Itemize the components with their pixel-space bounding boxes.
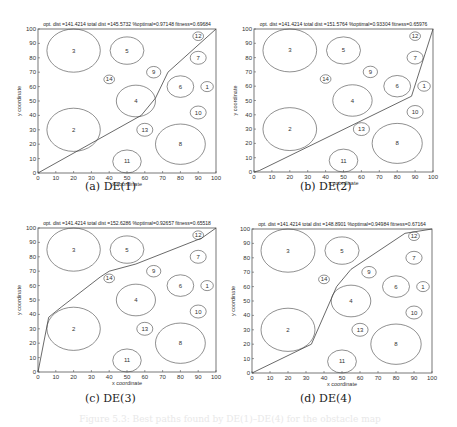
- y-tick-label: 60: [29, 283, 36, 289]
- obstacle-12: 12: [193, 32, 204, 41]
- y-tick-label: 70: [29, 69, 36, 75]
- subplot-caption-d: (d) DE(4): [300, 392, 352, 405]
- obstacle-label: 8: [394, 341, 398, 347]
- obstacle-label: 2: [72, 127, 76, 133]
- obstacle-label: 3: [286, 248, 290, 254]
- obstacle-11: 11: [113, 150, 141, 173]
- y-tick-label: 80: [245, 55, 252, 61]
- plot-title: opt. dist =141.4214 total dist =148.8901…: [258, 221, 426, 227]
- obstacle-label: 13: [141, 127, 148, 133]
- obstacle-12: 12: [410, 32, 421, 41]
- plot-area: opt. dist =141.4214 total dist =148.8901…: [252, 229, 432, 373]
- obstacle-4: 4: [333, 85, 372, 116]
- y-tick-label: 70: [29, 268, 36, 274]
- obstacle-label: 1: [205, 84, 209, 90]
- obstacle-2: 2: [261, 308, 315, 351]
- x-tick-label: 100: [211, 374, 222, 380]
- y-tick-label: 10: [243, 356, 250, 362]
- obstacle-14: 14: [104, 75, 115, 84]
- obstacle-3: 3: [261, 229, 315, 272]
- y-tick-label: 80: [243, 255, 250, 261]
- obstacle-label: 1: [205, 283, 209, 289]
- obstacle-13: 13: [137, 123, 153, 136]
- x-tick-label: 70: [376, 174, 383, 180]
- obstacle-4: 4: [331, 285, 371, 317]
- x-tick-label: 30: [88, 374, 95, 380]
- obstacle-9: 9: [147, 66, 161, 78]
- x-tick-label: 60: [141, 374, 148, 380]
- obstacle-9: 9: [363, 66, 377, 77]
- obstacle-label: 11: [124, 158, 131, 164]
- y-tick-label: 80: [29, 254, 36, 260]
- obstacle-label: 6: [179, 84, 183, 90]
- x-tick-label: 70: [159, 175, 166, 181]
- obstacle-label: 4: [134, 98, 138, 104]
- obstacle-3: 3: [47, 228, 100, 271]
- obstacle-label: 5: [342, 47, 346, 53]
- obstacle-label: 13: [358, 126, 365, 132]
- obstacle-5: 5: [325, 237, 359, 264]
- obstacle-6: 6: [167, 275, 194, 297]
- x-tick-label: 80: [177, 175, 184, 181]
- obstacle-label: 2: [288, 126, 292, 132]
- x-tick-label: 60: [358, 174, 365, 180]
- obstacle-label: 3: [72, 48, 76, 54]
- obstacle-8: 8: [371, 324, 421, 364]
- y-tick-label: 100: [242, 26, 253, 32]
- subplot-caption-c: (c) DE(3): [85, 392, 136, 405]
- y-tick-label: 30: [245, 126, 252, 132]
- y-tick-label: 50: [29, 98, 36, 104]
- obstacle-label: 6: [179, 283, 183, 289]
- obstacle-label: 9: [152, 268, 156, 274]
- x-tick-label: 10: [52, 374, 59, 380]
- obstacle-1: 1: [417, 282, 430, 292]
- obstacle-label: 9: [152, 69, 156, 75]
- subplot-caption-a: (a) DE(1): [85, 180, 136, 193]
- obstacle-6: 6: [167, 76, 194, 98]
- y-tick-label: 40: [29, 311, 36, 317]
- obstacle-label: 8: [396, 140, 400, 146]
- obstacle-label: 10: [195, 110, 202, 116]
- y-tick-label: 70: [243, 269, 250, 275]
- x-tick-label: 100: [427, 375, 438, 381]
- x-tick-label: 70: [159, 374, 166, 380]
- obstacle-label: 11: [339, 358, 346, 364]
- obstacle-label: 14: [322, 76, 329, 82]
- obstacle-13: 13: [352, 323, 368, 336]
- obstacle-label: 9: [367, 269, 371, 275]
- obstacle-label: 5: [125, 48, 129, 54]
- obstacle-label: 8: [179, 340, 183, 346]
- obstacle-2: 2: [47, 307, 100, 350]
- obstacle-label: 13: [141, 326, 148, 332]
- y-tick-label: 60: [243, 284, 250, 290]
- obstacle-label: 4: [134, 297, 138, 303]
- obstacle-11: 11: [328, 350, 357, 373]
- y-tick-label: 90: [29, 40, 36, 46]
- obstacle-7: 7: [190, 250, 206, 263]
- y-tick-label: 80: [29, 55, 36, 61]
- x-tick-label: 0: [36, 175, 40, 181]
- x-tick-label: 60: [357, 375, 364, 381]
- x-tick-label: 100: [428, 174, 439, 180]
- obstacle-5: 5: [110, 37, 144, 64]
- y-tick-label: 90: [243, 240, 250, 246]
- subplot-b: opt. dist =141.4214 total dist =151.5764…: [254, 29, 433, 172]
- obstacle-label: 1: [422, 83, 426, 89]
- obstacle-label: 1: [421, 284, 425, 290]
- y-axis-label: y coordinate: [230, 286, 236, 316]
- obstacle-label: 7: [412, 255, 416, 261]
- x-tick-label: 70: [375, 375, 382, 381]
- subplot-a: opt. dist =141.4214 total dist =145.5732…: [38, 29, 216, 173]
- obstacle-label: 14: [106, 76, 113, 82]
- obstacle-14: 14: [320, 75, 331, 84]
- obstacle-label: 2: [286, 327, 290, 333]
- y-tick-label: 30: [29, 326, 36, 332]
- y-tick-label: 100: [26, 225, 37, 231]
- obstacle-10: 10: [406, 306, 422, 319]
- obstacle-5: 5: [326, 37, 360, 64]
- x-tick-label: 20: [285, 375, 292, 381]
- y-tick-label: 10: [29, 156, 36, 162]
- obstacle-label: 12: [412, 33, 419, 39]
- obstacle-1: 1: [201, 281, 213, 291]
- obstacle-label: 4: [349, 298, 353, 304]
